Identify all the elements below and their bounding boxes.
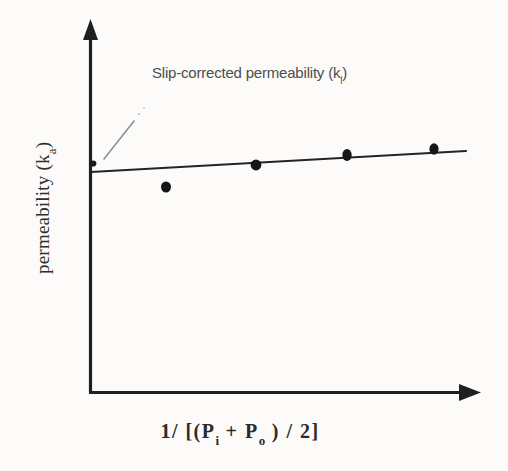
- annotation-text-close: ): [342, 64, 347, 81]
- x-axis-label-subscript-inlet: i: [215, 433, 219, 448]
- trend-line-group: [91, 151, 466, 172]
- leader-line: [104, 121, 134, 159]
- fit-line: [91, 151, 466, 172]
- y-axis-arrowhead: [83, 19, 98, 40]
- data-point: [161, 181, 171, 192]
- y-axis-label-subscript: a: [44, 148, 59, 154]
- x-axis-label-subscript-outlet: o: [259, 433, 266, 448]
- annotation-leader: [104, 107, 145, 159]
- x-axis-label-part1: 1/ [(P: [160, 420, 215, 442]
- y-axis-label-main: permeability (k: [32, 154, 53, 274]
- x-axis-label-plus: + P: [219, 420, 259, 442]
- data-point-intercept: [90, 160, 97, 166]
- y-axis-label: permeability (ka): [32, 98, 58, 318]
- data-point: [342, 149, 351, 161]
- data-points: [90, 143, 439, 192]
- leader-dot: [143, 107, 145, 109]
- x-axis: [89, 384, 481, 401]
- annotation-text-main: Slip-corrected permeability (k: [152, 64, 340, 81]
- slip-corrected-annotation: Slip-corrected permeability (kl): [152, 64, 347, 84]
- y-axis: [83, 19, 98, 392]
- data-point: [251, 160, 262, 171]
- x-axis-arrowhead: [459, 384, 481, 401]
- leader-dot: [138, 113, 140, 115]
- data-point: [429, 143, 438, 155]
- figure-canvas: permeability (ka) 1/ [(Pi + Po ) / 2] Sl…: [0, 0, 508, 471]
- x-axis-label-part2: ) / 2]: [265, 420, 319, 442]
- annotation-text-subscript: l: [340, 75, 342, 86]
- x-axis-label: 1/ [(Pi + Po ) / 2]: [90, 420, 390, 447]
